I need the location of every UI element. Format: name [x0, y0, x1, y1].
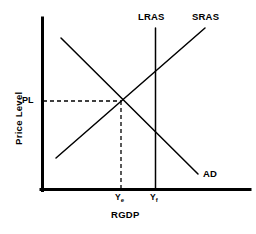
diagram-canvas	[0, 0, 256, 234]
equilibrium-output-label: Ye	[115, 193, 124, 202]
ad-curve-label: AD	[203, 169, 217, 179]
ad-curve	[61, 38, 198, 174]
equilibrium-output-letter: Y	[115, 192, 121, 202]
ad-as-diagram: Price Level RGDP LRAS SRAS AD PL Ye Yf	[0, 0, 256, 234]
equilibrium-output-subscript: e	[121, 197, 124, 203]
price-level-label: PL	[22, 96, 34, 105]
lras-curve-label: LRAS	[138, 12, 165, 22]
sras-curve	[56, 28, 205, 158]
full-employment-output-letter: Y	[150, 192, 156, 202]
full-employment-output-label: Yf	[150, 193, 158, 202]
full-employment-output-subscript: f	[156, 197, 158, 203]
x-axis-title: RGDP	[111, 210, 140, 220]
sras-curve-label: SRAS	[192, 12, 219, 22]
